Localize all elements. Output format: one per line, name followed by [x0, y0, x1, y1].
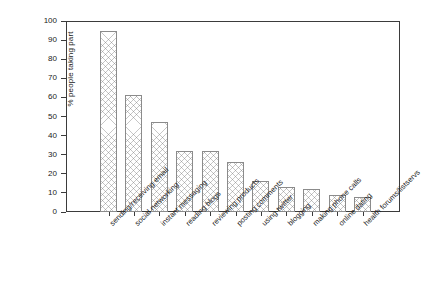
y-axis-tick: 30: [0, 150, 66, 160]
y-axis-tick-mark: [61, 154, 66, 155]
y-axis-title: % people taking part: [64, 14, 78, 124]
y-axis-tick-mark: [61, 78, 66, 79]
y-axis-tick-mark: [61, 192, 66, 193]
y-axis-tick-label: 60: [48, 92, 57, 102]
y-axis-tick-mark: [61, 97, 66, 98]
y-axis-tick-label: 70: [48, 73, 57, 83]
bar: [100, 31, 117, 212]
y-axis-tick: 90: [0, 35, 66, 45]
x-axis-tick-mark: [236, 212, 237, 216]
y-axis-tick: 10: [0, 188, 66, 198]
y-axis-tick-label: 80: [48, 54, 57, 64]
y-axis-tick-mark: [61, 212, 66, 213]
y-axis-tick-label: 20: [48, 169, 57, 179]
y-axis-tick: 100: [0, 16, 66, 26]
y-axis-tick: 60: [0, 92, 66, 102]
x-axis-tick-mark: [261, 212, 262, 216]
y-axis-tick: 70: [0, 73, 66, 83]
y-axis-tick-label: 30: [48, 150, 57, 160]
y-axis-tick: 20: [0, 169, 66, 179]
y-axis-tick-label: 10: [48, 188, 57, 198]
y-axis-tick-label: 100: [44, 16, 57, 26]
y-axis-tick-mark: [61, 173, 66, 174]
y-axis-tick-label: 90: [48, 35, 57, 45]
y-axis-tick-label: 50: [48, 112, 57, 122]
x-axis-tick-mark: [185, 212, 186, 216]
y-axis-tick-mark: [61, 21, 66, 22]
x-axis-tick-mark: [337, 212, 338, 216]
x-axis-tick-mark: [159, 212, 160, 216]
x-axis-tick-mark: [312, 212, 313, 216]
bar-chart: % people taking part 0102030405060708090…: [0, 0, 423, 297]
y-axis-tick-mark: [61, 116, 66, 117]
y-axis-tick-mark: [61, 59, 66, 60]
x-axis-tick-mark: [210, 212, 211, 216]
y-axis-tick: 50: [0, 112, 66, 122]
y-axis-tick-mark: [61, 40, 66, 41]
x-axis-tick-mark: [134, 212, 135, 216]
x-axis-tick-mark: [363, 212, 364, 216]
x-axis-tick-mark: [286, 212, 287, 216]
y-axis-tick: 40: [0, 131, 66, 141]
y-axis-tick: 80: [0, 54, 66, 64]
y-axis-tick-label: 0: [53, 207, 57, 217]
y-axis-tick-mark: [61, 135, 66, 136]
y-axis-tick: 0: [0, 207, 66, 217]
y-axis-tick-label: 40: [48, 131, 57, 141]
x-axis-tick-mark: [109, 212, 110, 216]
